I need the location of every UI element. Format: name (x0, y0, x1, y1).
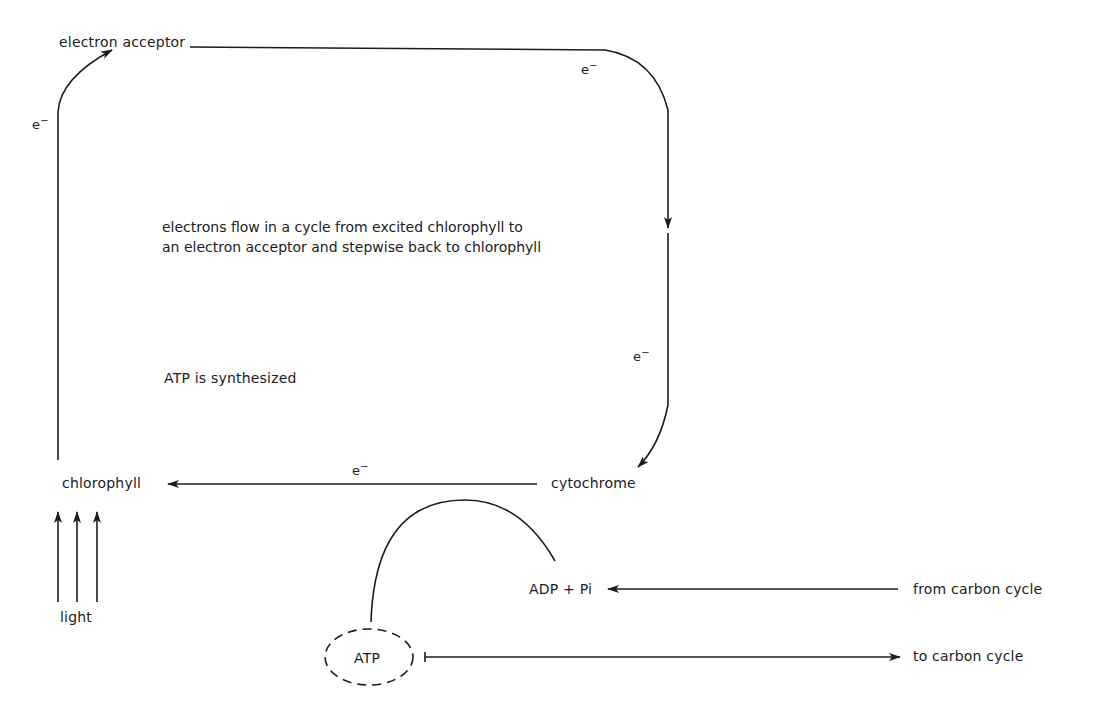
node-adp-pi: ADP + Pi (529, 582, 592, 596)
atp-synthesized-note: ATP is synthesized (164, 371, 297, 385)
edge-chlorophyll-to-acceptor (58, 50, 112, 460)
node-to-carbon-cycle: to carbon cycle (913, 649, 1024, 663)
electron-label-top-right: e− (581, 61, 598, 76)
cycle-description-line-2: an electron acceptor and stepwise back t… (162, 237, 541, 257)
cycle-description-line-1: electrons flow in a cycle from excited c… (162, 217, 541, 237)
node-from-carbon-cycle: from carbon cycle (913, 582, 1042, 596)
diagram-canvas (0, 0, 1097, 720)
cycle-description: electrons flow in a cycle from excited c… (162, 217, 541, 257)
edge-adp-to-atp-arc (371, 500, 555, 622)
node-cytochrome: cytochrome (551, 476, 636, 490)
node-electron-acceptor: electron acceptor (59, 35, 185, 49)
node-light: light (60, 610, 92, 624)
node-chlorophyll: chlorophyll (62, 476, 141, 490)
node-atp: ATP (354, 651, 380, 665)
electron-label-bottom: e− (352, 462, 369, 477)
electron-label-right: e− (633, 348, 650, 363)
electron-label-left: e− (32, 116, 49, 131)
